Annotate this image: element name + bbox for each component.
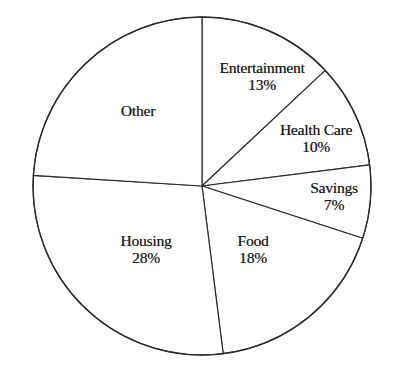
- slice-label-name: Health Care: [280, 121, 352, 138]
- slice-label-housing: Housing28%: [120, 232, 171, 267]
- slice-label-name: Food: [237, 232, 268, 249]
- slice-label-name: Other: [121, 102, 155, 119]
- slice-label-health-care: Health Care10%: [280, 121, 352, 156]
- slice-label-percent: 7%: [310, 196, 358, 213]
- slice-label-entertainment: Entertainment13%: [219, 59, 304, 94]
- pie-chart: Entertainment13%Health Care10%Savings7%F…: [0, 0, 397, 379]
- slice-label-name: Housing: [120, 232, 171, 249]
- slice-label-name: Entertainment: [219, 59, 304, 76]
- slice-label-other: Other: [121, 102, 155, 119]
- slice-label-percent: 18%: [237, 249, 268, 266]
- pie-slice-other: [33, 17, 202, 186]
- slice-label-percent: 10%: [280, 138, 352, 155]
- slice-label-percent: 28%: [120, 249, 171, 266]
- slice-label-name: Savings: [310, 179, 358, 196]
- slice-label-percent: 13%: [219, 76, 304, 93]
- slice-label-food: Food18%: [237, 232, 268, 267]
- slice-label-savings: Savings7%: [310, 179, 358, 214]
